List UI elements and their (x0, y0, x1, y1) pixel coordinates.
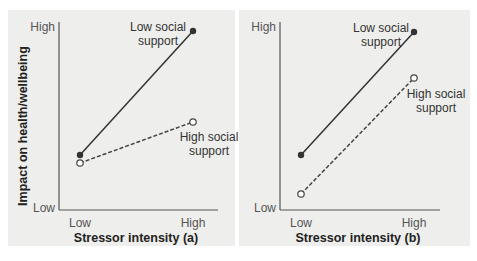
label-low-support-2-a: support (138, 34, 179, 48)
label-low-support-1-b: Low social (353, 21, 409, 35)
point-high-support-high-a (190, 119, 196, 125)
point-low-support-high-a (190, 28, 196, 34)
point-low-support-low-a (77, 152, 83, 158)
point-high-support-low-a (77, 160, 83, 166)
panel-divider (235, 10, 239, 246)
line-high-support-a (80, 122, 193, 163)
x-tick-high-b: High (402, 216, 427, 230)
y-tick-low-a: Low (33, 201, 55, 215)
point-high-support-low-b (298, 191, 304, 197)
x-tick-low-a: Low (69, 216, 91, 230)
line-low-support-a (80, 31, 193, 155)
point-low-support-high-b (411, 29, 417, 35)
y-tick-high-a: High (30, 20, 55, 34)
y-tick-low-b: Low (254, 201, 276, 215)
label-high-support-1-b: High social (407, 87, 466, 101)
x-axis-title-a: Stressor intensity (a) (74, 231, 198, 245)
point-high-support-high-b (411, 75, 417, 81)
point-low-support-low-b (298, 152, 304, 158)
y-tick-high-b: High (251, 20, 276, 34)
panel-b: High Low Low High Stressor intensity (b)… (251, 20, 465, 245)
chart-svg: High Low Low High Stressor intensity (a)… (0, 0, 477, 261)
label-low-support-2-b: support (361, 35, 402, 49)
panel-a: High Low Low High Stressor intensity (a)… (16, 20, 238, 245)
x-tick-low-b: Low (290, 216, 312, 230)
y-axis-title: Impact on health/wellbeing (16, 46, 30, 206)
label-high-support-2-b: support (416, 101, 457, 115)
label-high-support-1-a: High social (180, 130, 239, 144)
x-axis-title-b: Stressor intensity (b) (295, 231, 420, 245)
label-high-support-2-a: support (189, 144, 230, 158)
x-tick-high-a: High (181, 216, 206, 230)
label-low-support-1-a: Low social (130, 20, 186, 34)
